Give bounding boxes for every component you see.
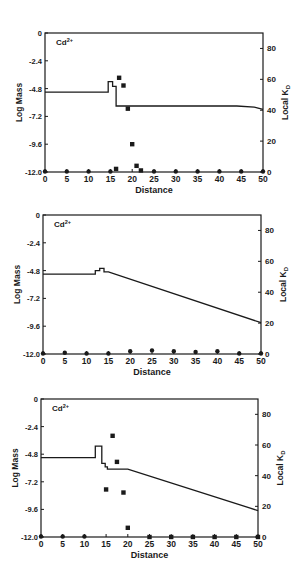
y2-tick-label: 0: [267, 168, 272, 177]
x-axis-label: Distance: [133, 367, 171, 377]
kd-circle-marker: [108, 169, 112, 173]
kd-circle-marker: [215, 349, 219, 353]
kd-circle-marker: [195, 169, 199, 173]
kd-square-marker: [234, 535, 238, 539]
plot-frame: [43, 215, 261, 354]
kd-square-marker: [147, 535, 151, 539]
x-tick-label: 30: [171, 174, 181, 184]
kd-circle-marker: [128, 349, 132, 353]
y-tick-label: -12.0: [23, 350, 40, 359]
x-tick-label: 45: [236, 174, 246, 184]
kd-circle-marker: [150, 348, 154, 352]
kd-circle-marker: [193, 350, 197, 354]
y-tick-label: -4.8: [27, 267, 40, 276]
x-tick-label: 0: [43, 174, 48, 184]
y2-tick-label: 80: [262, 410, 271, 419]
kd-square-marker: [110, 434, 114, 438]
y-tick-label: 0: [36, 211, 40, 220]
plot-frame: [41, 399, 258, 537]
kd-square-marker: [256, 535, 260, 539]
y-tick-label: -9.6: [27, 322, 40, 331]
y-tick-label: -4.8: [25, 450, 38, 459]
kd-square-marker: [139, 168, 143, 172]
x-tick-label: 35: [191, 356, 201, 366]
y-tick-label: -9.6: [29, 140, 42, 149]
y-tick-label: -4.8: [29, 85, 42, 94]
x-tick-label: 20: [127, 174, 137, 184]
species-label: Cd2+: [52, 403, 69, 413]
y-axis-label: Log Mass: [10, 448, 20, 487]
y2-tick-label: 0: [265, 350, 270, 359]
x-tick-label: 15: [101, 539, 111, 549]
chart-1: 05101520253035404550-12.0-9.6-7.2-4.8-2.…: [14, 29, 291, 195]
x-tick-label: 15: [106, 174, 116, 184]
kd-square-marker: [121, 490, 125, 494]
y-tick-label: -7.2: [25, 478, 38, 487]
x-tick-label: 30: [169, 356, 179, 366]
kd-circle-marker: [259, 351, 263, 355]
x-tick-label: 35: [188, 539, 198, 549]
y-tick-label: -9.6: [25, 505, 38, 514]
x-tick-label: 25: [145, 539, 155, 549]
kd-circle-marker: [172, 349, 176, 353]
x-tick-label: 5: [62, 356, 67, 366]
x-tick-label: 45: [234, 356, 244, 366]
x-tick-label: 10: [80, 539, 90, 549]
x-tick-label: 20: [123, 539, 133, 549]
kd-circle-marker: [217, 169, 221, 173]
kd-square-marker: [169, 535, 173, 539]
y-tick-label: -2.4: [25, 423, 39, 432]
kd-circle-marker: [237, 351, 241, 355]
y2-tick-label: 40: [262, 472, 271, 481]
y-tick-label: 0: [34, 395, 38, 404]
y-tick-label: -7.2: [27, 294, 40, 303]
kd-circle-marker: [261, 169, 265, 173]
x-tick-label: 30: [166, 539, 176, 549]
kd-circle-marker: [39, 534, 43, 538]
y2-tick-label: 40: [267, 106, 276, 115]
x-tick-label: 25: [147, 356, 157, 366]
y2-tick-label: 20: [265, 319, 274, 328]
y-tick-label: 0: [38, 29, 42, 38]
kd-circle-marker: [106, 351, 110, 355]
x-axis-label: Distance: [131, 550, 169, 560]
kd-circle-marker: [43, 169, 47, 173]
kd-square-marker: [114, 167, 118, 171]
y2-axis-label: Local KD: [278, 266, 289, 302]
kd-circle-marker: [239, 169, 243, 173]
x-tick-label: 35: [193, 174, 203, 184]
y-tick-label: -2.4: [29, 57, 43, 66]
kd-circle-marker: [86, 169, 90, 173]
y2-tick-label: 0: [262, 533, 267, 542]
x-tick-label: 25: [149, 174, 159, 184]
y-axis-label: Log Mass: [12, 265, 22, 304]
x-tick-label: 5: [64, 174, 69, 184]
y2-axis-label: Local KD: [280, 84, 291, 120]
x-axis-label: Distance: [135, 185, 173, 195]
y-tick-label: -7.2: [29, 112, 42, 121]
x-tick-label: 0: [39, 539, 44, 549]
y-tick-label: -2.4: [27, 239, 41, 248]
x-tick-label: 0: [41, 356, 46, 366]
kd-square-marker: [117, 76, 121, 80]
kd-square-marker: [212, 535, 216, 539]
kd-square-marker: [134, 164, 138, 168]
figure-canvas: 05101520253035404550-12.0-9.6-7.2-4.8-2.…: [0, 0, 299, 579]
y2-tick-label: 20: [262, 502, 271, 511]
y-axis-label: Log Mass: [14, 83, 24, 122]
y2-tick-label: 40: [265, 288, 274, 297]
kd-square-marker: [126, 526, 130, 530]
species-label: Cd2+: [54, 219, 71, 229]
chart-3: 05101520253035404550-12.0-9.6-7.2-4.8-2.…: [10, 395, 286, 560]
kd-circle-marker: [84, 351, 88, 355]
y2-tick-label: 80: [267, 44, 276, 53]
x-tick-label: 45: [232, 539, 242, 549]
chart-2: 05101520253035404550-12.0-9.6-7.2-4.8-2.…: [12, 211, 289, 377]
kd-circle-marker: [61, 534, 65, 538]
species-label: Cd2+: [56, 37, 73, 47]
kd-square-marker: [115, 460, 119, 464]
x-tick-label: 10: [82, 356, 92, 366]
y2-axis-label: Local KD: [275, 450, 286, 486]
kd-square-marker: [130, 142, 134, 146]
y2-tick-label: 80: [265, 226, 274, 235]
